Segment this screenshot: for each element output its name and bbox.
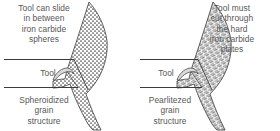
pearlitized-structure-label: Pearlitezed grain structure [140,95,212,126]
panel-spheroidized: Tool can slide in between iron carbide s… [0,0,140,131]
machining-comparison-figure: Tool can slide in between iron carbide s… [0,0,280,131]
tool-label-right: Tool [146,68,186,78]
panel-pearlitized: Tool must cut through the hard iron carb… [140,0,280,131]
pearlitized-note: Tool must cut through the hard iron carb… [188,3,276,54]
spheroidized-structure-label: Spheroidized grain structure [2,95,86,126]
tool-label-left: Tool [28,68,68,78]
spheroidized-note: Tool can slide in between iron carbide s… [2,3,86,44]
